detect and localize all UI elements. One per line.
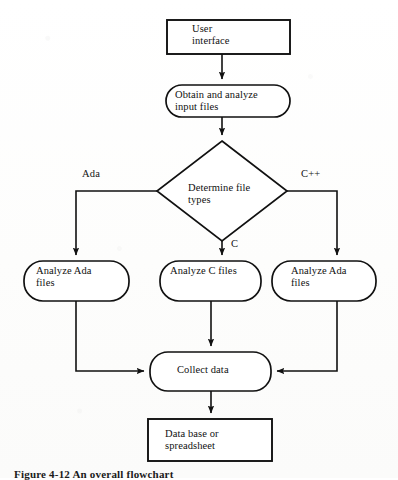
edge-ada-right-to-collect [277,301,337,371]
edge-ada-left-to-collect [76,301,144,371]
node-collect-data-label: Collect data [177,364,229,376]
edge-label-cpp: C++ [301,168,320,179]
figure-caption: Figure 4-12 An overall flowchart [14,468,174,480]
node-database-label: Data base or spreadsheet [165,428,219,453]
node-analyze-ada-left-label: Analyze Ada files [36,265,92,290]
edge-label-ada: Ada [82,168,100,179]
node-analyze-c-label: Analyze C files [170,265,237,277]
edge-determine-to-ada-right [287,191,337,255]
node-obtain-analyze-label: Obtain and analyze input files [175,89,258,114]
node-determine-label: Determine file types [188,182,250,207]
edge-determine-to-ada-left [76,191,157,255]
edge-label-c: C [231,238,238,249]
node-user-interface-label: User interface [192,23,230,48]
node-analyze-ada-right-label: Analyze Ada files [291,265,347,290]
